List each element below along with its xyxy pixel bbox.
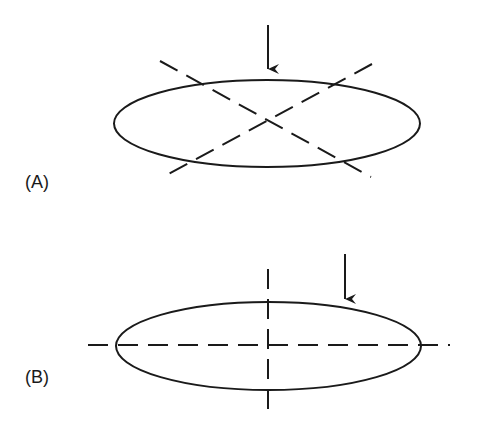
panel-label-a: (A) bbox=[25, 173, 49, 191]
dashed-axis-a-diagonal-1 bbox=[160, 61, 371, 177]
panel-label-b: (B) bbox=[25, 368, 49, 386]
diagram-canvas bbox=[0, 0, 478, 441]
ellipse-a bbox=[114, 80, 420, 167]
panel-b bbox=[88, 254, 450, 418]
panel-a bbox=[114, 25, 420, 178]
